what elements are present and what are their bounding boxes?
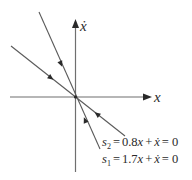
- equation-s1-x: x: [137, 152, 144, 166]
- x-axis-arrowhead: [143, 94, 152, 101]
- s1-upper-direction-arrow: [57, 60, 62, 67]
- equation-s2-xdot: ẋ: [153, 135, 160, 149]
- equation-s2-subscript: 2: [107, 142, 111, 151]
- x-axis-label: x: [153, 89, 161, 105]
- equation-s1-xdot: ẋ: [153, 152, 160, 166]
- equation-s1-subscript: 1: [107, 159, 111, 168]
- equation-s1-coef: 1.7: [122, 152, 138, 166]
- equation-s2-coef: 0.8: [122, 135, 138, 149]
- equation-s2-rhs: = 0: [162, 135, 178, 149]
- equation-s1: s1=1.7x+ẋ= 0: [102, 152, 178, 168]
- sliding-line-s2: [11, 46, 125, 136]
- y-axis-arrowhead: [72, 19, 79, 28]
- origin-point: [74, 95, 77, 98]
- y-axis-label: ẋ: [79, 18, 87, 34]
- equation-s2-x: x: [137, 135, 144, 149]
- equation-s1-rhs: = 0: [162, 152, 178, 166]
- equation-s2: s2=0.8x+ẋ= 0: [102, 135, 178, 151]
- equation-s1-plus: +: [145, 152, 152, 166]
- equation-s2-plus: +: [145, 135, 152, 149]
- sliding-line-s1: [39, 12, 100, 149]
- s2-lower-direction-arrow: [95, 112, 101, 118]
- equation-s1-equals: =: [113, 152, 120, 166]
- phase-plane-diagram: x ẋ s2=0.8x+ẋ= 0 s1=1.7x+ẋ= 0: [0, 0, 192, 180]
- equation-s2-equals: =: [113, 135, 120, 149]
